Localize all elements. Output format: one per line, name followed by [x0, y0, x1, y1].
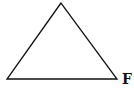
triangle-diagram: F [0, 0, 134, 92]
triangle-shape [7, 3, 117, 79]
vertex-label-right: F [122, 71, 132, 87]
